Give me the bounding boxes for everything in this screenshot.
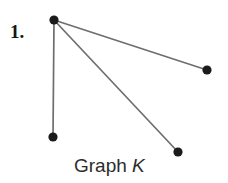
graph-figure-canvas: 1. Graph K xyxy=(0,0,228,183)
graph-vertex xyxy=(48,132,57,141)
graph-edge xyxy=(53,20,54,137)
vertex-layer xyxy=(48,15,211,156)
graph-vertex xyxy=(202,65,211,74)
edge-layer xyxy=(53,20,207,152)
graph-caption-name: K xyxy=(132,155,145,176)
graph-caption: Graph K xyxy=(74,155,145,177)
graph-vertex xyxy=(173,147,182,156)
graph-caption-prefix: Graph xyxy=(74,155,132,176)
graph-vertex xyxy=(49,15,58,24)
